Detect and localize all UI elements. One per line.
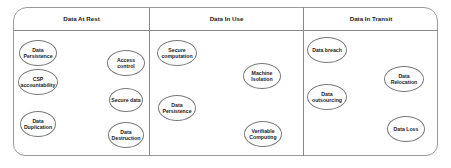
- node-data-outsourcing: Data outsourcing: [307, 84, 347, 110]
- node-data-persistence-rest: Data Persistence: [19, 40, 57, 66]
- node-secure-computation: Secure computation: [157, 40, 197, 66]
- column-title-data-in-transit: Data In Transit: [304, 12, 438, 26]
- column-title-data-at-rest: Data At Rest: [14, 12, 149, 26]
- node-data-duplication: Data Duplication: [20, 111, 56, 137]
- node-data-breach: Data breach: [307, 37, 347, 63]
- node-verifiable-computing: Verifiable Computing: [244, 121, 282, 147]
- node-machine-isolation: Machine Isolation: [243, 63, 281, 89]
- node-data-destruction: Data Destruction: [108, 122, 144, 148]
- node-secure-data: Secure data: [109, 88, 143, 112]
- node-data-relocation: Data Relocation: [384, 66, 424, 92]
- header-separator: [13, 30, 438, 31]
- node-data-loss: Data Loss: [387, 116, 425, 142]
- node-access-control: Access control: [107, 50, 145, 76]
- column-title-data-in-use: Data In Use: [150, 12, 303, 26]
- node-data-persistence-use: Data Persistence: [158, 95, 196, 121]
- column-divider-1: [149, 7, 150, 156]
- column-divider-2: [303, 7, 304, 156]
- node-csp-accountability: CSP accountability: [18, 69, 58, 95]
